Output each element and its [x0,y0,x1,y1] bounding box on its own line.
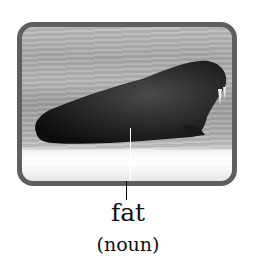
vocab-word: fat [0,197,256,229]
part-of-speech: (noun) [0,231,256,257]
picture-frame [17,22,237,186]
walrus-tusk [223,87,226,100]
pointer-line-inner [130,128,131,186]
walrus-image [22,27,232,181]
walrus-tusk [218,89,222,105]
